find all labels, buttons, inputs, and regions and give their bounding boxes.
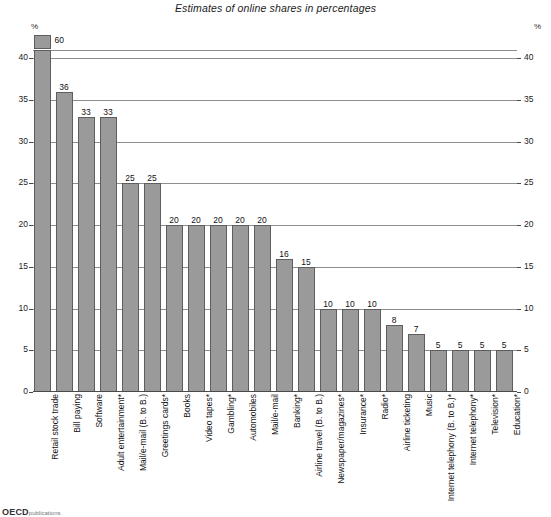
- bar-value-label: 20: [257, 215, 266, 225]
- x-category-label: Internet telephony (B. to B.)*: [443, 394, 460, 501]
- y-tick-label-right-35: 35: [524, 94, 533, 104]
- axis-break-rule: [33, 50, 517, 51]
- bar-value-label: 15: [301, 257, 310, 267]
- bar: 20: [210, 225, 227, 392]
- bar: 20: [166, 225, 183, 392]
- x-category-label: Radio*: [377, 394, 394, 420]
- x-axis-category-labels: Retail stock tradeBill payingSoftwareAdu…: [33, 394, 517, 498]
- y-tick-mark-left-30: [29, 142, 33, 143]
- y-tick-mark-right-15: [517, 267, 521, 268]
- bar: 10: [320, 309, 337, 392]
- bar-value-label: 5: [480, 340, 485, 350]
- y-tick-label-right-25: 25: [524, 177, 533, 187]
- bar-value-label: 5: [502, 340, 507, 350]
- y-tick-label-right-15: 15: [524, 261, 533, 271]
- y-tick-label-right-5: 5: [524, 344, 529, 354]
- y-tick-label-right-20: 20: [524, 219, 533, 229]
- bar: 7: [408, 334, 425, 392]
- bar-value-label: 25: [147, 173, 156, 183]
- bar: 16: [276, 259, 293, 392]
- x-category-label: Insurance*: [355, 394, 372, 435]
- x-category-label: Greetings cards*: [157, 394, 174, 457]
- x-category-label: Software: [91, 394, 108, 428]
- x-category-label: Airline travel (B. to B.): [311, 394, 328, 477]
- x-category-label: Airline ticketing: [399, 394, 416, 451]
- x-category-label: Education*: [509, 394, 526, 435]
- bar-value-label: 20: [213, 215, 222, 225]
- x-category-label: Bill paying: [69, 394, 86, 433]
- bar: 20: [232, 225, 249, 392]
- y-tick-label-left-0: 0: [23, 386, 28, 396]
- bar-value-label: 10: [323, 299, 332, 309]
- bar: 25: [144, 183, 161, 392]
- bar-value-label: 10: [367, 299, 376, 309]
- x-category-label: Television*: [487, 394, 504, 435]
- bar: 20: [254, 225, 271, 392]
- bar: 10: [364, 309, 381, 392]
- bar-value-label: 33: [103, 107, 112, 117]
- bar-value-label: 8: [392, 315, 397, 325]
- y-tick-label-right-10: 10: [524, 303, 533, 313]
- x-category-label: Mail/e-mail (B. to B.): [135, 394, 152, 471]
- x-category-label: Mail/e-mail: [267, 394, 284, 435]
- bar: 15: [298, 267, 315, 392]
- y-tick-label-left-40: 40: [19, 52, 28, 62]
- y-tick-mark-right-10: [517, 309, 521, 310]
- x-category-label: Newspaper/magazines*: [333, 394, 350, 484]
- y-tick-mark-left-5: [29, 350, 33, 351]
- bar-value-label: 5: [458, 340, 463, 350]
- bar: 5: [452, 350, 469, 392]
- gridline: [33, 58, 517, 59]
- x-category-label: Music: [421, 394, 438, 416]
- gridline: [33, 100, 517, 101]
- bar-value-label: 20: [191, 215, 200, 225]
- bar-value-label: 33: [81, 107, 90, 117]
- bar-value-label: 16: [279, 249, 288, 259]
- x-category-label: Video tapes*: [201, 394, 218, 442]
- y-tick-mark-left-10: [29, 309, 33, 310]
- x-category-label: Gambling*: [223, 394, 240, 434]
- bar-value-label: 25: [125, 173, 134, 183]
- x-category-label: Books: [179, 394, 196, 418]
- y-tick-mark-right-40: [517, 58, 521, 59]
- y-tick-mark-left-15: [29, 267, 33, 268]
- x-category-label: Internet telephony*: [465, 394, 482, 465]
- x-category-label: Banking*: [289, 394, 306, 428]
- x-axis-baseline: [33, 391, 517, 392]
- y-tick-label-left-30: 30: [19, 136, 28, 146]
- y-tick-label-left-10: 10: [19, 303, 28, 313]
- bar: 10: [342, 309, 359, 392]
- bar: [34, 50, 51, 392]
- publisher-mark-subtext: publications: [29, 510, 61, 516]
- y-tick-mark-left-0: [29, 392, 33, 393]
- bar: 5: [474, 350, 491, 392]
- y-tick-mark-right-25: [517, 183, 521, 184]
- bar-value-label: 7: [414, 324, 419, 334]
- y-tick-mark-right-5: [517, 350, 521, 351]
- bar-value-label: 20: [169, 215, 178, 225]
- y-tick-label-left-20: 20: [19, 219, 28, 229]
- bar: 5: [496, 350, 513, 392]
- y-tick-mark-left-25: [29, 183, 33, 184]
- bar-value-label: 36: [59, 82, 68, 92]
- y-tick-mark-right-0: [517, 392, 521, 393]
- plot-area: 0510152025303540 0510152025303540 363333…: [33, 50, 517, 392]
- bar: 36: [56, 92, 73, 392]
- y-tick-mark-left-35: [29, 100, 33, 101]
- publisher-mark-text: OECD: [2, 507, 29, 517]
- y-tick-mark-left-20: [29, 225, 33, 226]
- y-tick-mark-left-40: [29, 58, 33, 59]
- x-category-label: Automobiles: [245, 394, 262, 441]
- bar: 33: [78, 117, 95, 392]
- y-tick-mark-right-20: [517, 225, 521, 226]
- bar-stub-retail-stock-trade: [34, 35, 51, 49]
- y-tick-mark-right-30: [517, 142, 521, 143]
- bar: 25: [122, 183, 139, 392]
- bar-value-label: 5: [436, 340, 441, 350]
- chart-title: Estimates of online shares in percentage…: [0, 2, 551, 14]
- y-tick-mark-right-35: [517, 100, 521, 101]
- y-tick-label-left-25: 25: [19, 177, 28, 187]
- y-tick-label-right-30: 30: [524, 136, 533, 146]
- y-tick-label-left-35: 35: [19, 94, 28, 104]
- y-axis-unit-left: %: [31, 22, 38, 31]
